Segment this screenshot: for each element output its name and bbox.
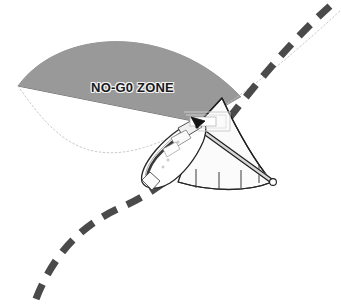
no-go-zone-wedge xyxy=(18,42,241,122)
diagram-canvas: NO-G0 ZONE xyxy=(0,0,341,305)
diagram-svg xyxy=(0,0,341,305)
